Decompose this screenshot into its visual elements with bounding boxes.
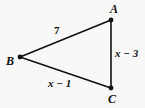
side-label-bc: x − 1 <box>48 78 71 89</box>
vertex-label-c: C <box>108 93 116 105</box>
geometry-figure: A B C 7 x − 3 x − 1 <box>0 0 145 108</box>
side-label-ab: 7 <box>54 25 60 36</box>
vertex-label-a: A <box>110 3 118 15</box>
vertex-label-b: B <box>6 55 14 67</box>
vertex-dot-c <box>109 86 114 91</box>
edge-ab <box>20 20 111 57</box>
vertex-dot-a <box>109 18 114 23</box>
side-label-ac: x − 3 <box>115 48 138 59</box>
vertex-dot-b <box>18 55 23 60</box>
